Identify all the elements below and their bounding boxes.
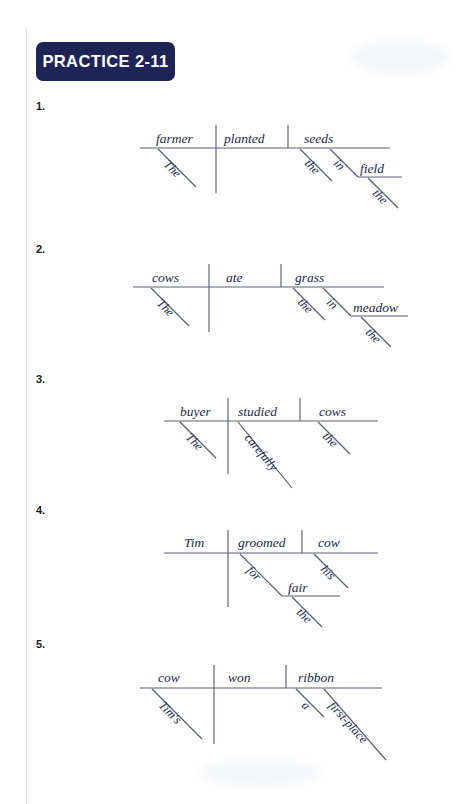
worksheet-page: PRACTICE 2-11 1. farmer planted seeds Th… xyxy=(0,0,472,804)
practice-badge-label: PRACTICE 2-11 xyxy=(42,52,168,71)
prep-object-1: field xyxy=(360,161,384,176)
object-3: cows xyxy=(319,404,346,419)
object-1: seeds xyxy=(304,131,333,146)
verb-5: won xyxy=(228,670,251,685)
preposition-4: for xyxy=(244,563,264,583)
object-modifier-2-5: first-place xyxy=(326,699,371,747)
practice-badge: PRACTICE 2-11 xyxy=(36,42,175,81)
prep-object-modifier-2: the xyxy=(363,325,384,346)
diagram-2: cows ate grass The the in meadow the xyxy=(0,264,472,374)
verb-1: planted xyxy=(223,131,265,146)
subject-1: farmer xyxy=(156,131,193,146)
exercise-number-4: 4. xyxy=(36,504,45,516)
object-modifier-5: a xyxy=(299,698,313,712)
preposition-1: in xyxy=(331,156,348,173)
prep-object-modifier-1: the xyxy=(370,186,391,207)
scan-smudge-top xyxy=(352,40,448,74)
diagram-3: buyer studied cows The carefully the xyxy=(0,396,472,506)
verb-2: ate xyxy=(226,270,243,285)
subject-2: cows xyxy=(152,270,179,285)
prep-object-2: meadow xyxy=(353,300,398,315)
verb-modifier-3: carefully xyxy=(242,431,281,474)
exercise-number-3: 3. xyxy=(36,373,45,385)
object-modifier-4: his xyxy=(318,562,338,582)
exercise-number-5: 5. xyxy=(36,638,45,650)
prep-object-modifier-4: the xyxy=(294,605,315,626)
diagram-1: farmer planted seeds The the in field th… xyxy=(0,125,472,235)
object-modifier-3: the xyxy=(320,429,341,450)
diagram-4: Tim groomed cow for fair the his xyxy=(0,525,472,635)
diagram-5: cow won ribbon Tim's a first-place xyxy=(0,660,472,790)
subject-modifier-5: Tim's xyxy=(156,698,185,727)
object-5: ribbon xyxy=(298,670,334,685)
preposition-2: in xyxy=(324,295,341,312)
subject-modifier-2: The xyxy=(154,296,177,319)
object-modifier-2: the xyxy=(295,295,316,316)
object-modifier-1: the xyxy=(302,156,323,177)
prep-object-4: fair xyxy=(288,580,308,595)
exercise-number-2: 2. xyxy=(36,243,45,255)
verb-4: groomed xyxy=(238,535,286,550)
object-2: grass xyxy=(295,270,324,285)
subject-5: cow xyxy=(158,670,180,685)
verb-3: studied xyxy=(238,404,277,419)
subject-4: Tim xyxy=(184,535,205,550)
subject-modifier-1: The xyxy=(161,157,184,180)
object-4: cow xyxy=(318,535,340,550)
subject-3: buyer xyxy=(180,404,211,419)
exercise-number-1: 1. xyxy=(36,100,45,112)
subject-modifier-3: The xyxy=(183,430,206,453)
